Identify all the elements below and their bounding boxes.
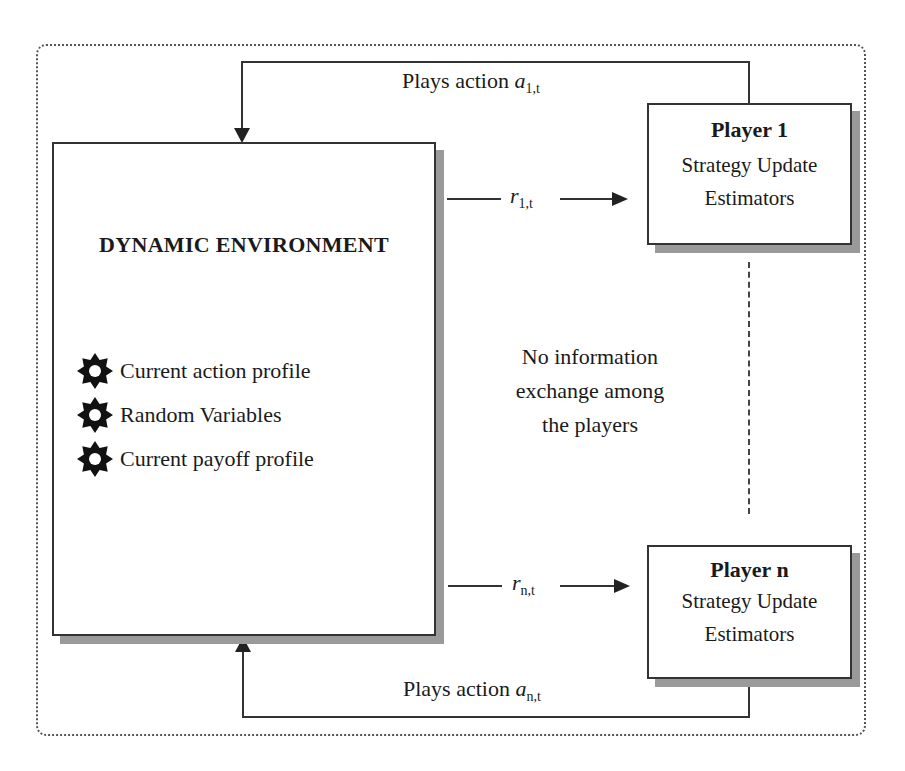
player-n-box: Player n Strategy Update Estimators: [647, 545, 852, 679]
player-1-strategy-update: Strategy Update: [649, 153, 850, 178]
rewardn-label: rn,t: [512, 570, 535, 599]
no-information-exchange-note: No information exchange among the player…: [470, 340, 710, 442]
bullet-label: Current payoff profile: [120, 446, 314, 472]
gear-icon: [76, 440, 114, 478]
bottom-path-vertical-right: [748, 678, 750, 718]
arrow-right-icon: [612, 192, 628, 206]
arrow-right-icon: [614, 579, 630, 593]
gear-icon: [76, 352, 114, 390]
reward1-label: r1,t: [510, 183, 533, 212]
arrow-up-icon: [235, 637, 251, 653]
top-path-vertical-right: [748, 61, 750, 104]
bullet-item: Current payoff profile: [76, 437, 314, 481]
bottom-action-label: Plays action an,t: [403, 676, 541, 705]
bottom-path-horizontal: [242, 716, 750, 718]
dynamic-environment-box: DYNAMIC ENVIRONMENT Current action profi…: [52, 142, 436, 636]
bullet-label: Current action profile: [120, 358, 311, 384]
environment-bullet-list: Current action profile Random Variables …: [76, 349, 314, 481]
player-n-estimators: Estimators: [649, 622, 850, 647]
bottom-path-vertical-left: [242, 650, 244, 718]
top-path-vertical-left: [241, 61, 243, 131]
bullet-item: Current action profile: [76, 349, 314, 393]
top-path-horizontal: [241, 61, 750, 63]
player-1-box: Player 1 Strategy Update Estimators: [647, 103, 852, 245]
rewardn-line-right: [560, 585, 618, 587]
environment-title: DYNAMIC ENVIRONMENT: [54, 232, 434, 258]
rewardn-line-left: [448, 585, 502, 587]
reward1-line-left: [447, 198, 501, 200]
bullet-item: Random Variables: [76, 393, 314, 437]
bullet-label: Random Variables: [120, 402, 282, 428]
reward1-line-right: [560, 198, 616, 200]
players-dashed-connector: [748, 262, 750, 514]
top-action-label: Plays action a1,t: [402, 68, 540, 97]
player-n-strategy-update: Strategy Update: [649, 589, 850, 614]
gear-icon: [76, 396, 114, 434]
player-n-title: Player n: [649, 557, 850, 583]
player-1-title: Player 1: [649, 117, 850, 143]
player-1-estimators: Estimators: [649, 186, 850, 211]
